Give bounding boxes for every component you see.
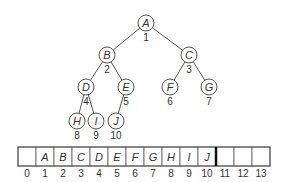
node-index: 6 [167, 96, 173, 107]
cell-value: G [149, 151, 158, 163]
node-index: 5 [123, 96, 129, 107]
tree-edge-a-c [152, 28, 182, 50]
tree-node-h: H8 [69, 113, 85, 141]
cell-index: 13 [255, 168, 267, 179]
tree-edge-b-d [90, 62, 102, 81]
tree-node-d: D4 [78, 79, 94, 107]
node-index: 4 [83, 96, 89, 107]
array-cell-2: B2 [54, 147, 72, 179]
array-cell-8: H8 [162, 147, 180, 179]
node-label: G [205, 81, 214, 93]
node-index: 8 [74, 130, 80, 141]
array-cell-11: 11 [216, 147, 234, 179]
cell-index: 10 [201, 168, 213, 179]
array-cell-9: I9 [180, 147, 198, 179]
tree-edge-d-i [88, 95, 93, 114]
cell-box [234, 147, 252, 166]
array-cell-5: E5 [108, 147, 126, 179]
array-cell-4: D4 [90, 147, 108, 179]
cell-value: E [113, 151, 121, 163]
cell-index: 9 [186, 168, 192, 179]
node-index: 10 [110, 130, 122, 141]
cell-index: 6 [132, 168, 138, 179]
node-label: I [94, 115, 97, 127]
cell-index: 5 [114, 168, 120, 179]
node-index: 3 [186, 64, 192, 75]
array-cell-13: 13 [252, 147, 270, 179]
node-label: C [185, 49, 193, 61]
tree-node-g: G7 [201, 79, 217, 107]
cell-box [18, 147, 36, 166]
node-label: E [122, 81, 130, 93]
cell-index: 4 [96, 168, 102, 179]
cell-index: 3 [78, 168, 84, 179]
cell-index: 7 [150, 168, 156, 179]
node-label: D [82, 81, 90, 93]
cell-value: A [40, 151, 48, 163]
tree-edge-c-g [193, 62, 205, 80]
tree-node-j: J10 [108, 113, 124, 141]
cell-value: D [95, 151, 103, 163]
array-cell-10: J10 [198, 147, 216, 179]
tree-node-c: C3 [181, 47, 197, 75]
cell-value: C [77, 151, 85, 163]
tree-node-a: A1 [138, 15, 154, 43]
cell-box [252, 147, 270, 166]
cell-index: 11 [220, 168, 231, 179]
node-index: 9 [93, 130, 99, 141]
tree-edge-b-e [111, 62, 122, 80]
cell-value: J [203, 151, 210, 163]
cell-index: 2 [60, 168, 66, 179]
node-label: J [112, 115, 119, 127]
tree-edge-c-f [174, 62, 185, 80]
cell-index: 1 [42, 168, 48, 179]
cell-index: 8 [168, 168, 174, 179]
tree-nodes: A1B2C3D4E5F6G7H8I9J10 [69, 15, 217, 141]
tree-edge-a-b [113, 28, 140, 50]
node-label: H [73, 115, 81, 127]
node-label: B [103, 49, 110, 61]
cell-value: B [59, 151, 66, 163]
tree-node-i: I9 [88, 113, 104, 141]
node-label: A [141, 17, 149, 29]
cell-index: 12 [237, 168, 249, 179]
heap-tree-array-diagram: A1B2C3D4E5F6G7H8I9J10 0A1B2C3D4E5F6G7H8I… [0, 0, 282, 182]
array-cell-3: C3 [72, 147, 90, 179]
tree-node-f: F6 [162, 79, 178, 107]
array-cell-6: F6 [126, 147, 144, 179]
node-index: 1 [143, 32, 149, 43]
node-index: 2 [104, 64, 110, 75]
tree-node-b: B2 [99, 47, 115, 75]
array-cell-0: 0 [18, 147, 36, 179]
cell-value: H [167, 151, 175, 163]
tree-node-e: E5 [118, 79, 134, 107]
cell-index: 0 [24, 168, 30, 179]
cell-value: I [187, 151, 190, 163]
cell-box [216, 147, 234, 166]
array-cell-12: 12 [234, 147, 252, 179]
array-cell-1: A1 [36, 147, 54, 179]
array-cell-7: G7 [144, 147, 162, 179]
array: 0A1B2C3D4E5F6G7H8I9J10111213 [18, 147, 270, 179]
node-index: 7 [206, 96, 212, 107]
